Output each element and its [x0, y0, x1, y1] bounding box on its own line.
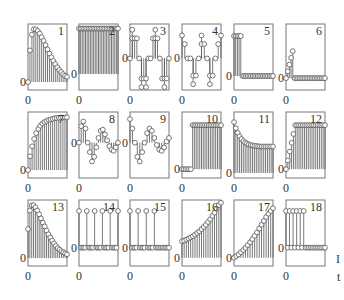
stem-marker — [148, 56, 153, 61]
stem-marker — [154, 143, 159, 148]
stem-marker — [271, 74, 276, 79]
stem-marker — [213, 56, 218, 61]
stem-marker — [202, 42, 207, 47]
stem-marker — [284, 167, 289, 172]
y-tick-label: 0 — [174, 251, 180, 265]
edge-text-2: t — [337, 270, 340, 285]
stem-marker — [65, 74, 70, 79]
x-tick-label: 0 — [76, 93, 82, 107]
stem-marker — [65, 115, 70, 120]
stem-marker — [285, 158, 290, 163]
stem-panel-18: 1800 — [278, 200, 327, 283]
stem-marker — [210, 73, 215, 78]
stem-panel-3: 300 — [122, 24, 171, 107]
y-tick-label: 0 — [20, 251, 26, 265]
stem-marker — [285, 69, 290, 74]
panel-number: 16 — [206, 200, 218, 214]
y-tick-label: 0 — [278, 162, 284, 176]
x-tick-label: 0 — [127, 269, 133, 283]
y-tick-label: 0 — [71, 67, 77, 81]
panel-number: 6 — [316, 24, 322, 38]
stem-marker — [323, 76, 328, 81]
stem-panel-8: 800 — [71, 112, 120, 195]
stem-marker — [100, 127, 105, 132]
stem-marker — [103, 132, 108, 137]
x-tick-label: 0 — [127, 93, 133, 107]
stem-marker — [92, 154, 97, 159]
panel-number: 17 — [258, 200, 270, 214]
stem-marker — [65, 252, 70, 257]
stem-marker — [90, 159, 95, 164]
stem-marker — [164, 76, 169, 81]
stem-marker — [96, 136, 101, 141]
stem-marker — [32, 137, 37, 142]
stem-marker — [26, 227, 31, 232]
stem-marker — [194, 73, 199, 78]
stem-marker — [134, 36, 139, 41]
y-tick-label: 0 — [122, 241, 128, 255]
stem-marker — [191, 82, 196, 87]
stem-panel-1: 100 — [20, 24, 69, 107]
stem-panel-6: 600 — [278, 24, 327, 107]
x-tick-label: 0 — [283, 269, 289, 283]
x-tick-label: 0 — [76, 269, 82, 283]
stem-marker — [128, 209, 133, 214]
stem-marker — [26, 168, 31, 173]
x-tick-label: 0 — [283, 93, 289, 107]
stem-marker — [162, 145, 167, 150]
stem-marker — [142, 140, 147, 145]
stem-marker — [167, 136, 172, 141]
y-tick-label: 0 — [278, 71, 284, 85]
stem-panel-14: 1400 — [71, 200, 120, 283]
panel-number: 4 — [212, 24, 218, 38]
stem-marker — [238, 34, 243, 39]
stem-marker — [30, 144, 35, 149]
stem-marker — [84, 209, 89, 214]
stem-marker — [233, 126, 238, 131]
stem-marker — [30, 32, 35, 37]
panel-number: 1 — [58, 24, 64, 38]
stem-marker — [153, 27, 158, 32]
stem-marker — [207, 82, 212, 87]
panel-number: 10 — [206, 112, 218, 126]
y-tick-label: 0 — [20, 163, 26, 177]
panel-number: 14 — [103, 200, 115, 214]
stem-marker — [152, 136, 157, 141]
stem-marker — [130, 126, 135, 131]
stem-panel-13: 1300 — [20, 200, 69, 283]
stem-marker — [26, 80, 31, 85]
x-tick-label: 0 — [179, 269, 185, 283]
stem-panel-17: 1700 — [226, 200, 275, 283]
x-tick-label: 0 — [231, 181, 237, 195]
panel-number: 7 — [58, 112, 64, 126]
stem-marker — [113, 145, 118, 150]
x-tick-label: 0 — [76, 181, 82, 195]
x-tick-label: 0 — [25, 269, 31, 283]
stem-marker — [145, 131, 150, 136]
y-tick-label: 0 — [226, 69, 232, 83]
stem-marker — [162, 85, 167, 90]
stem-marker — [83, 126, 88, 131]
stem-marker — [232, 120, 237, 125]
x-tick-label: 0 — [127, 181, 133, 195]
x-tick-label: 0 — [25, 93, 31, 107]
y-tick-label: 0 — [71, 136, 77, 150]
stem-panel-4: 400 — [174, 24, 223, 107]
stem-marker — [216, 42, 221, 47]
stem-panel-10: 1000 — [174, 112, 223, 195]
y-tick-label: 0 — [122, 51, 128, 65]
stem-marker — [128, 117, 133, 122]
stem-marker — [287, 62, 292, 67]
stem-marker — [114, 245, 119, 250]
stem-marker — [291, 132, 296, 137]
stem-marker — [105, 138, 110, 143]
edge-text-1: I — [336, 252, 340, 267]
stem-marker — [219, 200, 224, 205]
stem-panel-9: 900 — [122, 112, 171, 195]
panel-number: 2 — [109, 24, 115, 38]
stem-marker — [182, 42, 187, 47]
stem-marker — [135, 154, 140, 159]
stem-plot-grid: 1002003004005006007008009001000110012001… — [0, 0, 344, 300]
panel-number: 9 — [160, 112, 166, 126]
y-tick-label: 0 — [122, 136, 128, 150]
